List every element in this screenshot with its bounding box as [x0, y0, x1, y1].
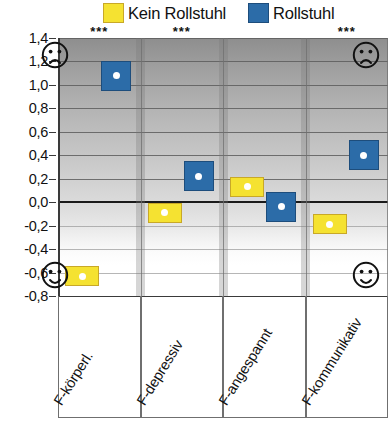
happy-face-icon-bottom-right: [352, 261, 380, 289]
y-axis-tick-label: 0,0: [29, 194, 48, 210]
significance-marker: ***: [338, 26, 356, 38]
happy-face-icon-bottom-left: [41, 261, 69, 289]
data-marker-kein-rollstuhl: [313, 214, 347, 234]
legend-label-kein-rollstuhl: Kein Rollstuhl: [128, 4, 226, 23]
y-axis-tick-label: 0,2: [29, 171, 48, 187]
significance-marker: ***: [173, 26, 191, 38]
x-axis: F-körperl.F-depressivF-angespanntF-kommu…: [58, 296, 388, 420]
x-axis-cell: [223, 296, 306, 418]
x-axis-cell: [58, 296, 141, 418]
data-marker-rollstuhl: [101, 61, 131, 91]
sad-face-icon-top-right: [352, 41, 380, 69]
y-axis-tick-label: -0,8: [24, 288, 48, 304]
legend-item-kein-rollstuhl: Kein Rollstuhl: [103, 3, 226, 23]
marker-center-dot: [326, 221, 333, 228]
data-marker-rollstuhl: [349, 140, 379, 170]
legend-swatch-kein-rollstuhl: [103, 3, 124, 23]
marker-center-dot: [360, 152, 367, 159]
legend-label-rollstuhl: Rollstuhl: [273, 4, 334, 23]
chart-plot-area: [58, 38, 388, 296]
sad-face-icon-top-left: [41, 41, 69, 69]
y-axis-tick-label: 0,8: [29, 100, 48, 116]
y-axis-tick-mark: [49, 226, 56, 227]
category-divider: [58, 38, 59, 296]
y-axis-tick-mark: [49, 202, 56, 203]
data-marker-rollstuhl: [266, 192, 296, 222]
y-axis-tick-mark: [49, 155, 56, 156]
marker-center-dot: [195, 173, 202, 180]
y-axis-tick-mark: [49, 108, 56, 109]
y-axis-tick-label: 0,4: [29, 147, 48, 163]
marker-center-dot: [244, 183, 251, 190]
marker-center-dot: [79, 273, 86, 280]
category-divider: [223, 38, 224, 296]
y-axis-tick-mark: [49, 179, 56, 180]
legend-swatch-rollstuhl: [248, 3, 269, 23]
data-marker-rollstuhl: [184, 161, 214, 191]
category-divider: [306, 38, 307, 296]
legend-item-rollstuhl: Rollstuhl: [248, 3, 334, 23]
y-axis-tick-mark: [49, 132, 56, 133]
data-marker-kein-rollstuhl: [65, 266, 99, 286]
x-axis-cell: [306, 296, 389, 418]
marker-center-dot: [161, 209, 168, 216]
y-axis-tick-mark: [49, 38, 56, 39]
marker-center-dot: [278, 203, 285, 210]
category-divider: [387, 38, 388, 296]
data-marker-kein-rollstuhl: [148, 203, 182, 223]
category-divider: [141, 38, 142, 296]
data-marker-kein-rollstuhl: [230, 177, 264, 197]
y-axis-tick-mark: [49, 85, 56, 86]
x-axis-cell: [141, 296, 224, 418]
marker-center-dot: [113, 72, 120, 79]
y-axis-tick-label: 0,6: [29, 124, 48, 140]
y-axis: 1,41,21,00,80,60,40,20,0-0,2-0,4-0,6-0,8: [0, 38, 56, 296]
y-axis-tick-label: -0,2: [24, 218, 48, 234]
y-axis-tick-label: 1,0: [29, 77, 48, 93]
y-axis-tick-mark: [49, 296, 56, 297]
y-axis-tick-mark: [49, 249, 56, 250]
y-axis-tick-label: -0,4: [24, 241, 48, 257]
significance-marker: ***: [90, 26, 108, 38]
